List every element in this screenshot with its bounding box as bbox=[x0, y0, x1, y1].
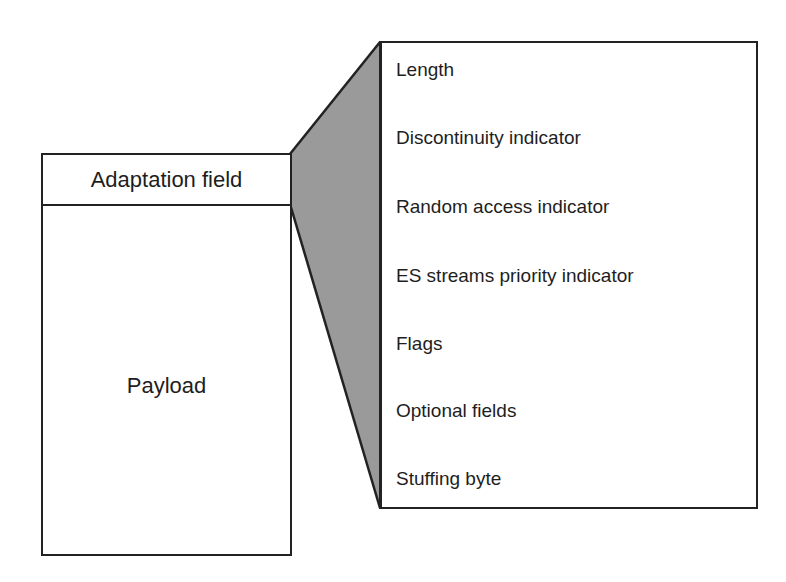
payload-cell: Payload bbox=[43, 206, 290, 554]
adaptation-field-label: Adaptation field bbox=[91, 167, 243, 193]
field-item-flags: Flags bbox=[396, 333, 442, 355]
field-item-random-access-indicator: Random access indicator bbox=[396, 196, 609, 218]
field-item-discontinuity-indicator: Discontinuity indicator bbox=[396, 127, 581, 149]
field-item-es-streams-priority-indicator: ES streams priority indicator bbox=[396, 265, 634, 287]
adaptation-field-contents-box: Length Discontinuity indicator Random ac… bbox=[379, 41, 758, 509]
payload-label: Payload bbox=[127, 373, 207, 399]
diagram-canvas: Adaptation field Payload Length Disconti… bbox=[0, 0, 786, 582]
field-item-stuffing-byte: Stuffing byte bbox=[396, 468, 501, 490]
field-item-optional-fields: Optional fields bbox=[396, 400, 516, 422]
adaptation-field-cell: Adaptation field bbox=[43, 155, 290, 206]
field-item-length: Length bbox=[396, 59, 454, 81]
ts-packet-box: Adaptation field Payload bbox=[41, 153, 292, 556]
